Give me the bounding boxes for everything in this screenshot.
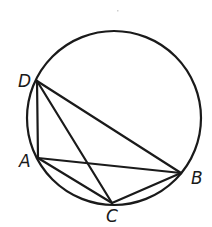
label-b: B	[191, 168, 203, 188]
segment-dc	[37, 81, 112, 203]
label-d: D	[18, 71, 31, 91]
scan-speck	[117, 10, 119, 12]
circle	[27, 31, 201, 205]
geometry-diagram: D A C B	[0, 0, 212, 227]
label-a: A	[18, 151, 31, 171]
segment-da	[37, 81, 38, 158]
label-c: C	[106, 206, 118, 226]
